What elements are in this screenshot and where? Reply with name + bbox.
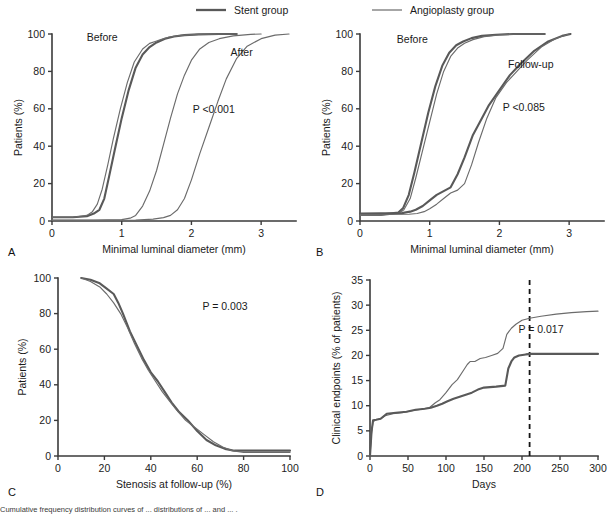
y-tick-label-2: 40 [341, 140, 353, 152]
x-tick-label-6: 300 [589, 462, 607, 474]
y-axis-title: Patients (%) [16, 338, 28, 395]
panel-a-chart: 0123020406080100Minimal luminal diameter… [0, 18, 308, 264]
y-tick-label-5: 100 [27, 28, 45, 40]
series-line-3 [52, 34, 289, 220]
y-tick-label-7: 35 [351, 274, 363, 286]
y-tick-label-3: 60 [39, 343, 51, 355]
x-axis-title: Minimal luminal diameter (mm) [410, 243, 554, 255]
x-tick-label-5: 100 [281, 462, 299, 474]
axis-lines [58, 278, 290, 456]
legend-label-0: Stent group [234, 4, 288, 16]
x-tick-label-2: 2 [497, 227, 503, 239]
x-tick-label-3: 60 [191, 462, 203, 474]
annotation-0: P = 0.017 [518, 323, 563, 335]
y-tick-label-1: 20 [341, 177, 353, 189]
annotation-1: After [231, 46, 254, 58]
axis-lines [360, 34, 604, 221]
panel-letter: A [8, 246, 16, 258]
y-tick-label-4: 80 [341, 65, 353, 77]
annotation-0: P = 0.003 [203, 300, 248, 312]
panel-letter: C [8, 486, 16, 498]
y-tick-label-3: 15 [351, 374, 363, 386]
x-tick-label-0: 0 [367, 462, 373, 474]
series-line-1 [81, 278, 290, 452]
axis-lines [370, 280, 598, 456]
y-tick-label-2: 40 [33, 140, 45, 152]
x-tick-label-3: 150 [475, 462, 493, 474]
y-tick-label-2: 10 [351, 399, 363, 411]
panel-letter: B [316, 246, 323, 258]
y-tick-label-3: 60 [341, 102, 353, 114]
annotation-2: P <0.001 [193, 103, 235, 115]
series-line-2 [52, 34, 261, 220]
y-tick-label-5: 100 [335, 28, 353, 40]
x-tick-label-5: 250 [551, 462, 569, 474]
axis-lines [52, 34, 296, 221]
x-tick-label-0: 0 [357, 227, 363, 239]
x-tick-label-1: 1 [119, 227, 125, 239]
x-tick-label-3: 3 [258, 227, 264, 239]
legend-item-1: Angioplasty group [372, 4, 494, 16]
x-tick-label-2: 2 [189, 227, 195, 239]
y-axis-title: Patients (%) [320, 99, 332, 156]
y-tick-label-1: 20 [39, 414, 51, 426]
y-tick-label-1: 20 [33, 177, 45, 189]
x-tick-label-1: 50 [402, 462, 414, 474]
y-axis-title: Patients (%) [12, 99, 24, 156]
y-tick-label-0: 0 [357, 450, 363, 462]
x-axis-title: Minimal luminal diameter (mm) [102, 243, 246, 255]
figure-caption: Cumulative frequency distribution curves… [0, 505, 616, 514]
x-tick-label-2: 40 [145, 462, 157, 474]
x-tick-label-1: 1 [427, 227, 433, 239]
y-tick-label-2: 40 [39, 378, 51, 390]
y-tick-label-0: 0 [39, 215, 45, 227]
x-tick-label-4: 200 [513, 462, 531, 474]
panel-d-chart: 05010015020025030005101520253035DaysClin… [308, 258, 616, 504]
y-tick-label-0: 0 [45, 450, 51, 462]
y-tick-label-6: 30 [351, 299, 363, 311]
x-tick-label-0: 0 [49, 227, 55, 239]
annotation-0: Before [87, 31, 118, 43]
x-tick-label-4: 80 [238, 462, 250, 474]
y-axis-title: Clinical endpoints (% of patients) [330, 292, 342, 445]
x-tick-label-3: 3 [566, 227, 572, 239]
annotation-1: Follow-up [508, 58, 554, 70]
x-tick-label-0: 0 [55, 462, 61, 474]
y-tick-label-4: 20 [351, 349, 363, 361]
y-tick-label-3: 60 [33, 102, 45, 114]
series-line-1 [370, 354, 598, 456]
y-tick-label-4: 80 [33, 65, 45, 77]
y-tick-label-5: 100 [33, 272, 51, 284]
x-axis-title: Days [472, 478, 496, 490]
y-tick-label-5: 25 [351, 324, 363, 336]
y-tick-label-4: 80 [39, 307, 51, 319]
x-axis-title: Stenosis at follow-up (%) [116, 478, 232, 490]
series-line-0 [370, 311, 598, 456]
series-line-0 [81, 278, 290, 451]
y-tick-label-0: 0 [347, 215, 353, 227]
x-tick-label-1: 20 [99, 462, 111, 474]
panel-letter: D [316, 486, 324, 498]
panel-c-chart: 020406080100020406080100Stenosis at foll… [0, 258, 308, 504]
x-tick-label-2: 100 [437, 462, 455, 474]
legend-item-0: Stent group [196, 4, 288, 16]
legend-label-1: Angioplasty group [410, 4, 494, 16]
annotation-2: P <0.085 [503, 101, 545, 113]
panel-b-chart: 0123020406080100Minimal luminal diameter… [308, 18, 616, 264]
y-tick-label-1: 5 [357, 424, 363, 436]
annotation-0: Before [397, 33, 428, 45]
